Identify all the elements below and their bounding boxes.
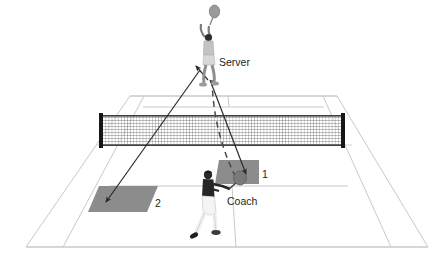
- tennis-court-diagram: Server Coach 1 2: [0, 0, 436, 259]
- coach-label: Coach: [227, 196, 257, 207]
- court-illustration: [0, 0, 436, 259]
- net-post-right: [341, 113, 345, 148]
- coach-racket-head: [234, 171, 247, 185]
- server-shorts: [203, 55, 215, 65]
- net-top-band: [101, 115, 343, 117]
- server-racket-handle: [210, 17, 213, 25]
- net-post-left: [99, 113, 103, 148]
- server-torso: [204, 41, 215, 55]
- zone-2-label: 2: [155, 198, 161, 209]
- net-mesh-body: [101, 115, 343, 146]
- server-label: Server: [219, 57, 250, 68]
- server-leg-back: [212, 65, 214, 82]
- server-shoe-front: [199, 83, 207, 87]
- zone-1-label: 1: [262, 169, 268, 180]
- server-racket-head: [209, 5, 219, 18]
- server-head: [205, 34, 212, 41]
- server-leg-front: [204, 65, 206, 83]
- coach-shoe-front: [211, 230, 220, 235]
- server-player-figure: [199, 5, 220, 86]
- server-arm-left: [201, 24, 205, 37]
- target-zone-2: [88, 186, 158, 212]
- server-shoe-back: [211, 82, 219, 86]
